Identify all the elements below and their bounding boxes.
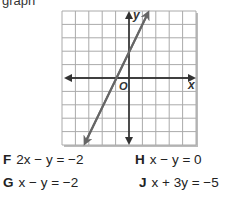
origin-label: O <box>119 80 128 92</box>
choice-equation: x − y = −2 <box>19 175 79 190</box>
answer-choices: F2x − y = −2 Gx − y = −2 Hx − y = 0 Jx +… <box>0 150 227 203</box>
coordinate-graph: y x O <box>0 0 227 150</box>
choice-g[interactable]: Gx − y = −2 <box>3 175 78 190</box>
x-axis-label: x <box>187 78 196 92</box>
choice-f[interactable]: F2x − y = −2 <box>3 152 83 167</box>
choice-j[interactable]: Jx + 3y = −5 <box>139 175 219 190</box>
choice-letter: F <box>3 152 11 167</box>
choice-equation: x − y = 0 <box>150 152 202 167</box>
choice-letter: J <box>139 175 147 190</box>
choice-equation: 2x − y = −2 <box>16 152 83 167</box>
choice-letter: G <box>3 175 14 190</box>
choice-h[interactable]: Hx − y = 0 <box>135 152 202 167</box>
choice-equation: x + 3y = −5 <box>152 175 219 190</box>
choice-letter: H <box>135 152 145 167</box>
y-axis-label: y <box>132 8 141 22</box>
